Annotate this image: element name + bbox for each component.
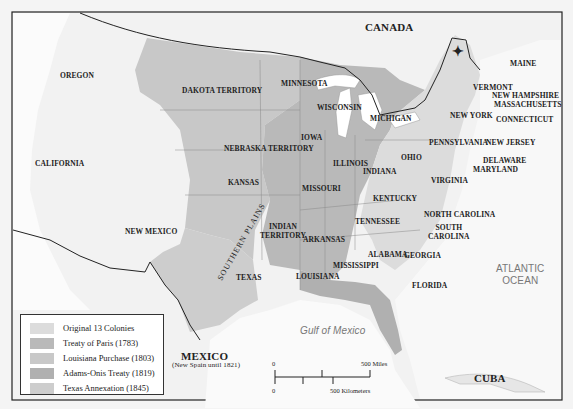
legend-item: Original 13 Colonies [21,321,163,335]
legend-swatch-treaty-of-paris [30,338,54,349]
legend-swatch-adams-onis [30,368,54,379]
label-minnesota: MINNESOTA [281,80,328,88]
label-new-hampshire: NEW HAMPSHIRE [492,92,559,100]
label-atlantic-ocean: ATLANTIC OCEAN [496,263,544,287]
label-tennessee: TENNESSEE [355,218,400,226]
legend-label: Louisiana Purchase (1803) [63,353,154,363]
label-oregon: OREGON [60,72,94,80]
scale-bar: 0 500 Miles 0 500 Kilometers [270,360,410,400]
label-new-mexico: NEW MEXICO [125,228,177,236]
legend-swatch-texas-annexation [30,383,54,394]
label-florida: FLORIDA [412,282,447,290]
legend-item: Texas Annexation (1845) [21,381,163,395]
label-georgia: GEORGIA [404,252,441,260]
label-kansas: KANSAS [228,179,259,187]
label-missouri: MISSOURI [302,185,341,193]
label-mississippi: MISSISSIPPI [333,262,379,270]
label-alabama: ALABAMA [368,251,407,259]
legend-swatch-original-colonies [30,323,54,334]
label-california: CALIFORNIA [35,160,84,168]
legend-label: Original 13 Colonies [63,323,134,333]
label-south-carolina: SOUTHCAROLINA [428,224,470,241]
legend-swatch-louisiana-purchase [30,353,54,364]
label-north-carolina: NORTH CAROLINA [424,211,495,219]
label-indiana: INDIANA [363,168,397,176]
label-iowa: IOWA [301,134,322,142]
legend-item: Adams-Onis Treaty (1819) [21,366,163,380]
label-pennsylvania: PENNSYLVANIA [429,139,488,147]
label-michigan: MICHIGAN [370,115,412,123]
label-maryland: MARYLAND [473,166,518,174]
label-texas: TEXAS [236,274,262,282]
scale-km-label: 500 Kilometers [330,387,370,394]
compass-rose: ✦ [452,45,464,59]
legend-label: Treaty of Paris (1783) [63,338,138,348]
label-connecticut: CONNECTICUT [496,116,553,124]
label-maine: MAINE [510,60,536,68]
label-ohio: OHIO [401,154,422,162]
atlantic-line2: OCEAN [502,275,538,286]
scale-ruler [270,360,410,400]
label-new-jersey: NEW JERSEY [486,139,535,147]
scale-zero-km: 0 [272,387,275,394]
legend-label: Texas Annexation (1845) [63,383,149,393]
label-wisconsin: WISCONSIN [317,104,362,112]
label-kentucky: KENTUCKY [373,195,417,203]
legend-item: Louisiana Purchase (1803) [21,351,163,365]
label-dakota: DAKOTA TERRITORY [182,87,262,95]
label-nebraska: NEBRASKA TERRITORY [224,145,314,153]
label-vermont: VERMONT [473,84,513,92]
label-arkansas: ARKANSAS [303,236,345,244]
label-massachusetts: MASSACHUSETTS [494,101,562,109]
label-mexico-note: (New Spain until 1821) [172,362,240,369]
label-new-york: NEW YORK [450,112,493,120]
atlantic-line1: ATLANTIC [496,263,544,274]
map-legend: Original 13 Colonies Treaty of Paris (17… [20,314,164,395]
label-virginia: VIRGINIA [431,177,468,185]
label-canada: CANADA [365,22,413,33]
label-indian-territory: INDIANTERRITORY [260,223,306,240]
label-gulf-of-mexico: Gulf of Mexico [300,326,365,336]
legend-label: Adams-Onis Treaty (1819) [63,368,155,378]
label-cuba: CUBA [474,373,506,384]
legend-item: Treaty of Paris (1783) [21,336,163,350]
label-delaware: DELAWARE [483,157,526,165]
label-louisiana: LOUISIANA [296,273,339,281]
